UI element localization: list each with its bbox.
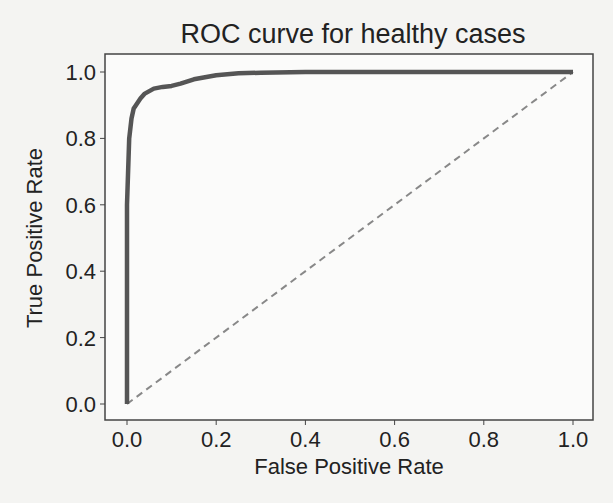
y-tick-label: 0.0 [65,392,96,417]
x-tick-label: 0.4 [290,427,321,452]
x-tick-label: 1.0 [558,427,589,452]
y-tick-label: 0.4 [65,259,96,284]
y-axis-label: True Positive Rate [22,148,47,328]
x-axis-label: False Positive Rate [254,454,444,479]
x-tick-label: 0.6 [379,427,410,452]
roc-chart: ROC curve for healthy cases 0.00.20.40.6… [0,0,613,503]
x-tick-label: 0.8 [469,427,500,452]
chart-title: ROC curve for healthy cases [180,19,525,49]
y-tick-label: 1.0 [65,60,96,85]
x-tick-label: 0.0 [112,427,143,452]
y-tick-label: 0.8 [65,126,96,151]
x-tick-label: 0.2 [201,427,232,452]
y-tick-label: 0.6 [65,193,96,218]
y-tick-label: 0.2 [65,326,96,351]
